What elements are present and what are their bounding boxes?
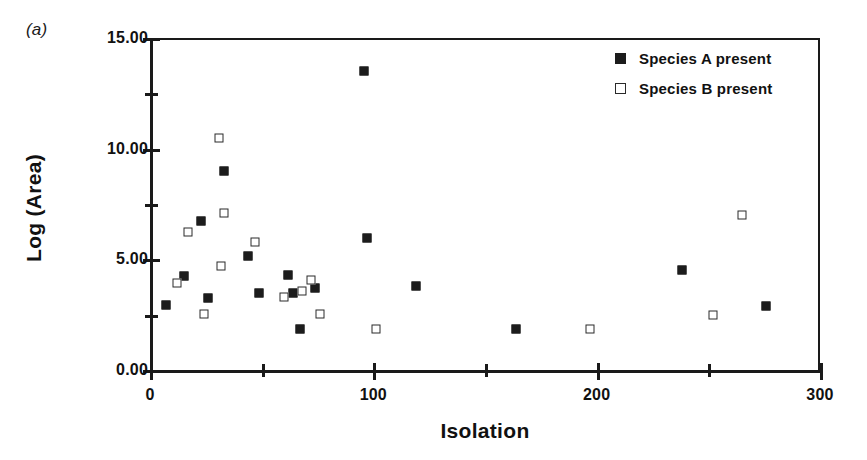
- data-point: [512, 325, 521, 334]
- x-tick-minor: [708, 364, 711, 377]
- data-point: [197, 216, 206, 225]
- y-tick-minor: [145, 204, 158, 207]
- data-point: [585, 325, 594, 334]
- data-point: [371, 325, 380, 334]
- data-point: [288, 288, 297, 297]
- plot-frame-right: [818, 38, 820, 373]
- y-tick-label: 10.00: [68, 140, 148, 158]
- y-tick-minor: [145, 315, 158, 318]
- plot-frame-top: [150, 38, 820, 40]
- x-axis-title: Isolation: [150, 419, 820, 443]
- data-point: [360, 67, 369, 76]
- data-point: [411, 281, 420, 290]
- data-point: [161, 300, 170, 309]
- data-point: [215, 133, 224, 142]
- data-point: [737, 211, 746, 220]
- filled-square-icon: [615, 53, 626, 64]
- legend-label: Species B present: [639, 80, 772, 97]
- x-tick-label: 100: [338, 386, 408, 404]
- y-tick-label: 5.00: [68, 250, 148, 268]
- scatter-plot-figure: (a) Log (Area) Isolation 0.005.0010.0015…: [0, 0, 867, 460]
- x-tick-label: 300: [785, 386, 855, 404]
- data-point: [280, 292, 289, 301]
- data-point: [219, 166, 228, 175]
- y-tick-label: 0.00: [68, 361, 148, 379]
- data-point: [255, 288, 264, 297]
- data-point: [217, 261, 226, 270]
- data-point: [204, 294, 213, 303]
- y-axis-title: Log (Area): [22, 108, 46, 308]
- x-tick-major: [597, 363, 600, 380]
- data-point: [362, 234, 371, 243]
- x-tick-label: 0: [115, 386, 185, 404]
- data-point: [284, 270, 293, 279]
- data-point: [297, 287, 306, 296]
- x-tick-minor: [485, 364, 488, 377]
- data-point: [311, 284, 320, 293]
- x-tick-minor: [262, 364, 265, 377]
- x-tick-label: 200: [562, 386, 632, 404]
- data-point: [315, 309, 324, 318]
- y-tick-minor: [145, 93, 158, 96]
- data-point: [708, 310, 717, 319]
- data-point: [762, 301, 771, 310]
- data-point: [219, 208, 228, 217]
- data-point: [244, 252, 253, 261]
- legend: Species A presentSpecies B present: [615, 50, 772, 110]
- data-point: [677, 266, 686, 275]
- panel-label: (a): [26, 20, 47, 40]
- open-square-icon: [615, 83, 626, 94]
- legend-label: Species A present: [639, 50, 771, 67]
- data-point: [199, 309, 208, 318]
- data-point: [250, 237, 259, 246]
- y-tick-label: 15.00: [68, 29, 148, 47]
- x-tick-major: [820, 363, 823, 380]
- x-tick-major: [373, 363, 376, 380]
- data-point: [183, 227, 192, 236]
- data-point: [295, 325, 304, 334]
- legend-item: Species B present: [615, 80, 772, 97]
- x-tick-major: [150, 363, 153, 380]
- data-point: [172, 278, 181, 287]
- data-point: [306, 276, 315, 285]
- legend-item: Species A present: [615, 50, 772, 67]
